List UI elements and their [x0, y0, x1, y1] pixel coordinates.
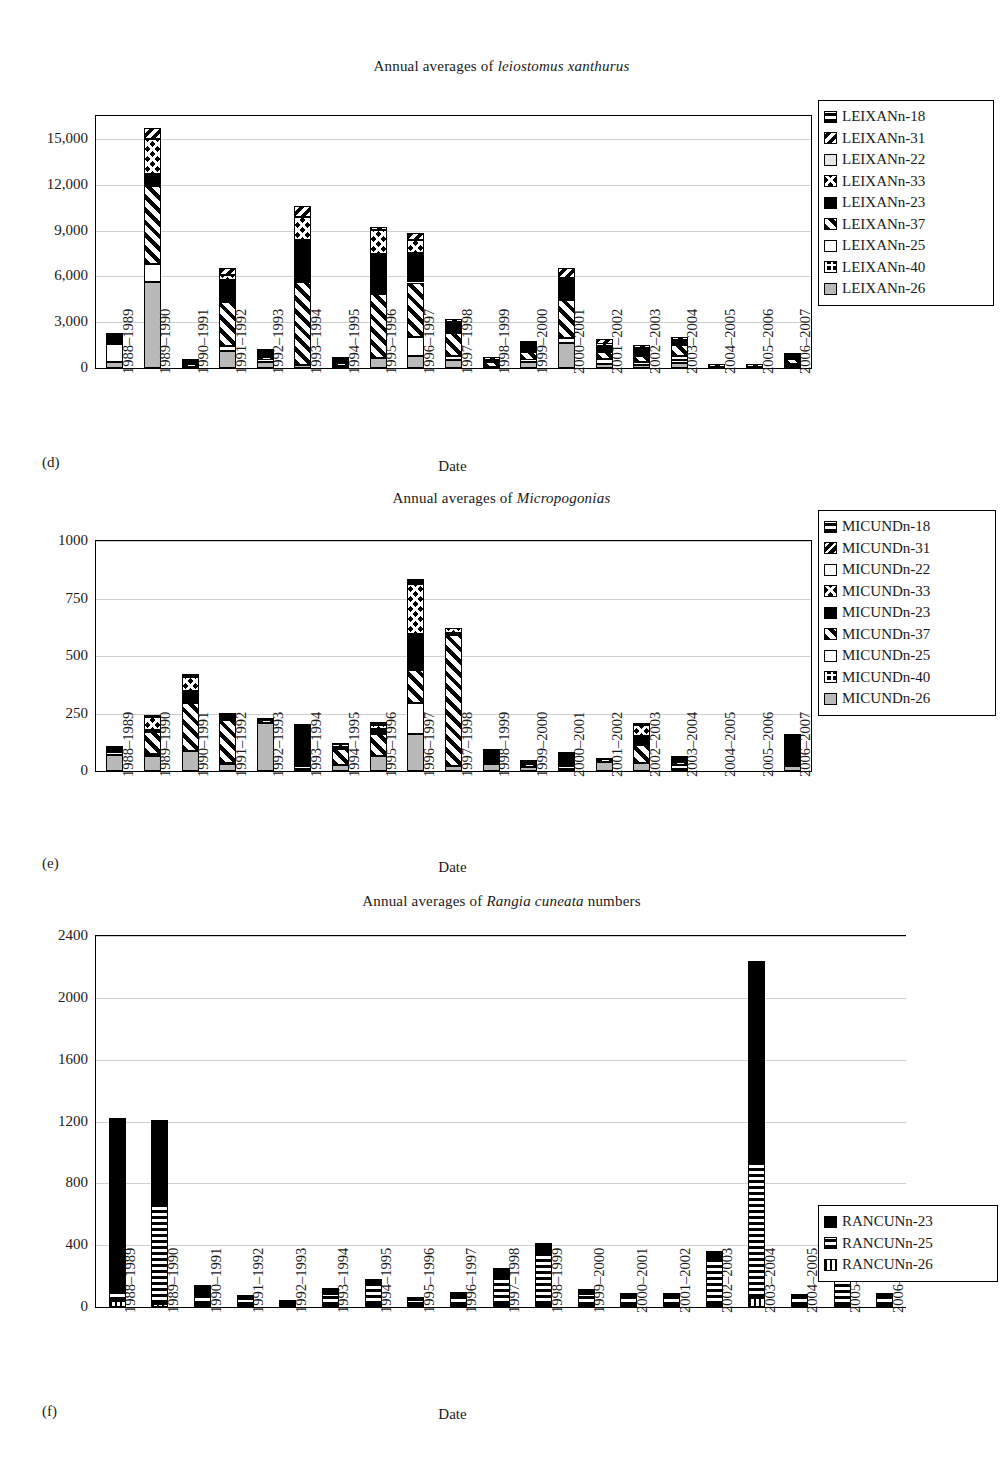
legend-item[interactable]: LEIXANn-22	[824, 149, 986, 171]
y-minor-tick	[95, 1183, 96, 1184]
bar-segment	[558, 268, 575, 278]
y-minor-tick	[95, 212, 96, 213]
legend-swatch-icon	[824, 564, 837, 576]
x-tick-label: 2001–2002	[609, 309, 626, 374]
bar-segment	[219, 275, 236, 280]
legend-item[interactable]: RANCUNn-26	[824, 1254, 990, 1276]
y-minor-tick	[95, 1159, 96, 1160]
y-tick	[95, 368, 96, 369]
y-minor-tick	[95, 286, 96, 287]
gridline	[96, 139, 811, 140]
legend-item[interactable]: LEIXANn-26	[824, 278, 986, 300]
x-tick-label: 1998–1999	[496, 309, 513, 374]
legend-item[interactable]: LEIXANn-23	[824, 192, 986, 214]
legend-swatch-icon	[824, 218, 837, 230]
legend-label: MICUNDn-22	[842, 562, 930, 577]
legend-swatch-icon	[824, 1216, 837, 1228]
bar-segment	[407, 579, 424, 583]
x-tick-label: 1996–1997	[421, 309, 438, 374]
y-minor-tick	[95, 1258, 96, 1259]
x-tick-label: 1998–1999	[549, 1248, 566, 1313]
x-tick-label: 2001–2002	[677, 1248, 694, 1313]
x-tick-label: 1993–1994	[335, 1248, 352, 1313]
gridline	[96, 185, 811, 186]
y-minor-tick	[95, 350, 96, 351]
bar-segment	[144, 128, 161, 139]
legend-item[interactable]: LEIXANn-18	[824, 106, 986, 128]
chart-panel-e: Annual averages of Micropogonias 0250500…	[0, 490, 1003, 880]
legend-label: LEIXANn-37	[842, 217, 925, 232]
legend-item[interactable]: LEIXANn-33	[824, 171, 986, 193]
x-tick-label: 1988–1989	[122, 1248, 139, 1313]
y-tick-label: 2000	[58, 988, 88, 1005]
legend-swatch-icon	[824, 283, 837, 295]
y-minor-tick	[95, 166, 96, 167]
legend-item[interactable]: MICUNDn-40	[824, 667, 988, 689]
x-tick-label: 2005–2006	[760, 309, 777, 374]
y-minor-tick	[95, 176, 96, 177]
legend-item[interactable]: MICUNDn-31	[824, 538, 988, 560]
x-tick-label: 1991–1992	[233, 712, 250, 777]
bar-segment	[407, 670, 424, 703]
legend-item[interactable]: LEIXANn-31	[824, 128, 986, 150]
legend-label: MICUNDn-26	[842, 691, 930, 706]
y-tick-label: 500	[66, 647, 89, 664]
legend-label: MICUNDn-31	[842, 541, 930, 556]
y-tick-label: 3,000	[54, 313, 88, 330]
y-minor-tick	[95, 998, 96, 999]
y-minor-tick	[95, 610, 96, 611]
y-tick-label: 0	[81, 1298, 89, 1315]
legend-swatch-icon	[824, 521, 837, 533]
legend-item[interactable]: RANCUNn-25	[824, 1233, 990, 1255]
legend-label: LEIXANn-26	[842, 281, 925, 296]
x-tick-label: 1999–2000	[591, 1248, 608, 1313]
legend-label: RANCUNn-26	[842, 1257, 933, 1272]
y-tick-label: 0	[81, 359, 89, 376]
legend-label: LEIXANn-23	[842, 195, 925, 210]
legend-item[interactable]: MICUNDn-33	[824, 581, 988, 603]
y-minor-tick	[95, 1196, 96, 1197]
legend-item[interactable]: MICUNDn-23	[824, 602, 988, 624]
y-minor-tick	[95, 121, 96, 122]
chart-title-e: Annual averages of Micropogonias	[0, 490, 1003, 507]
y-minor-tick	[95, 668, 96, 669]
legend-item[interactable]: LEIXANn-37	[824, 214, 986, 236]
legend-item[interactable]: LEIXANn-25	[824, 235, 986, 257]
legend-swatch-icon	[824, 1237, 837, 1249]
x-axis-title-e: Date	[95, 859, 810, 876]
x-tick-label: 1989–1990	[157, 712, 174, 777]
y-minor-tick	[95, 1109, 96, 1110]
x-tick-label: 1996–1997	[463, 1248, 480, 1313]
bar-segment	[151, 1120, 168, 1205]
y-minor-tick	[95, 1270, 96, 1271]
x-tick-label: 2001–2002	[609, 712, 626, 777]
x-tick-label: 1993–1994	[308, 712, 325, 777]
legend-item[interactable]: MICUNDn-18	[824, 516, 988, 538]
y-minor-tick	[95, 276, 96, 277]
x-tick-label: 2003–2004	[684, 309, 701, 374]
gridline	[96, 1060, 906, 1061]
legend-item[interactable]: LEIXANn-40	[824, 257, 986, 279]
bar-segment	[144, 174, 161, 186]
legend-item[interactable]: RANCUNn-23	[824, 1211, 990, 1233]
y-minor-tick	[95, 1072, 96, 1073]
x-tick-label: 1992–1993	[270, 712, 287, 777]
gridline	[96, 998, 906, 999]
legend-swatch-icon	[824, 197, 837, 209]
x-tick-label: 1991–1992	[250, 1248, 267, 1313]
gridline	[96, 1122, 906, 1123]
y-tick-label: 15,000	[47, 129, 88, 146]
legend-item[interactable]: MICUNDn-37	[824, 624, 988, 646]
y-minor-tick	[95, 148, 96, 149]
legend-item[interactable]: MICUNDn-25	[824, 645, 988, 667]
y-tick	[95, 771, 96, 772]
y-minor-tick	[95, 267, 96, 268]
legend-item[interactable]: MICUNDn-26	[824, 688, 988, 710]
x-tick-label: 2004–2005	[722, 712, 739, 777]
legend-swatch-icon	[824, 607, 837, 619]
y-minor-tick	[95, 564, 96, 565]
legend-item[interactable]: MICUNDn-22	[824, 559, 988, 581]
x-tick-label: 1992–1993	[293, 1248, 310, 1313]
y-minor-tick	[95, 737, 96, 738]
y-minor-tick	[95, 936, 96, 937]
